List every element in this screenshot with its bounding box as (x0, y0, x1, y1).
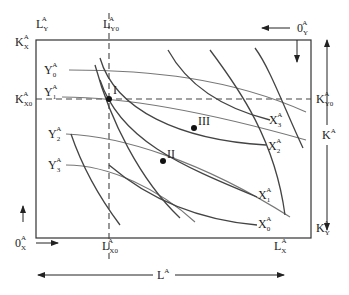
point-I (106, 96, 112, 102)
label-Y3: Y3A (48, 156, 61, 174)
label-K-Y: KYA (316, 219, 330, 237)
label-X3: X3A (269, 111, 282, 129)
label-L-X0: LX0A (102, 237, 118, 255)
label-point-III: III (198, 114, 210, 128)
label-L-total: LA (157, 267, 169, 282)
y-isoquant-2 (66, 134, 290, 217)
label-L-Y0: LY0A (103, 15, 119, 33)
point-II (160, 158, 166, 164)
label-K-Y0: KY0A (316, 90, 334, 108)
label-Y0: Y0A (44, 61, 57, 79)
label-point-I: I (113, 83, 117, 97)
label-X1: X1A (258, 186, 271, 204)
label-Y1: Y1A (44, 83, 57, 101)
edgeworth-box-diagram: LYA LY0A 0YA KXA KX0A 0XA Y0A Y1A Y2A Y3… (0, 0, 349, 295)
label-origin-Y: 0YA (297, 19, 308, 37)
label-X0: X0A (258, 215, 271, 233)
label-L-X: LXA (274, 237, 286, 255)
label-K-X0: KX0A (15, 90, 33, 108)
x-isoquant-arc-d (71, 134, 120, 225)
point-III (191, 125, 197, 131)
label-L-Y: LYA (36, 15, 48, 33)
label-X2: X2A (268, 137, 281, 155)
label-origin-X: 0XA (15, 234, 26, 252)
x-isoquant-0 (109, 165, 257, 225)
label-K-total: KA (322, 127, 336, 142)
x-isoquant-arc-b (210, 50, 285, 215)
label-K-X: KXA (15, 33, 29, 51)
x-isoquant-3 (168, 50, 270, 120)
label-Y2: Y2A (48, 125, 61, 143)
x-isoquant-arc-c (95, 65, 180, 218)
label-point-II: II (167, 147, 175, 161)
